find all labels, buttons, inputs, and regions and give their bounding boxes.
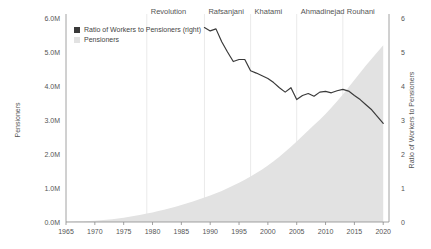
x-tick-label: 1980 — [145, 228, 161, 235]
chart-canvas: 1965197019751980198519901995200020052010… — [0, 0, 431, 249]
x-tick-label: 2020 — [375, 228, 391, 235]
legend-swatch — [74, 37, 80, 43]
x-tick-label: 2010 — [318, 228, 334, 235]
x-tick-label: 1975 — [116, 228, 132, 235]
era-label-khatami: Khatami — [255, 7, 283, 16]
x-tick-label: 1985 — [174, 228, 190, 235]
y2-tick-label: 1 — [401, 185, 405, 192]
x-tick-label: 1965 — [58, 228, 74, 235]
y2-tick-label: 5 — [401, 49, 405, 56]
y-tick-label: 0.0M — [44, 219, 60, 226]
y-tick-labels: 0.0M1.0M2.0M3.0M4.0M5.0M6.0M — [44, 15, 60, 226]
area-series-pensioners — [66, 45, 383, 222]
y2-tick-label: 4 — [401, 83, 405, 90]
era-label-rouhani: Rouhani — [347, 7, 375, 16]
y2-tick-label: 3 — [401, 117, 405, 124]
x-tick-label: 2000 — [260, 228, 276, 235]
y2-tick-label: 2 — [401, 151, 405, 158]
pensioners-ratio-chart: 1965197019751980198519901995200020052010… — [0, 0, 431, 249]
x-tick-label: 2005 — [289, 228, 305, 235]
y-tick-label: 3.0M — [44, 117, 60, 124]
y2-tick-label: 0 — [401, 219, 405, 226]
y2-tick-label: 6 — [401, 15, 405, 22]
y-axis-title: Pensioners — [14, 102, 21, 138]
chart-legend: Ratio of Workers to Pensioners (right)Pe… — [74, 26, 201, 43]
era-labels: RevolutionRafsanjaniKhatamiAhmadinejadRo… — [151, 7, 375, 16]
legend-swatch — [74, 27, 80, 33]
era-label-rafsanjani: Rafsanjani — [208, 7, 244, 16]
legend-label: Pensioners — [84, 36, 120, 43]
era-label-ahmadinejad: Ahmadinejad — [301, 7, 345, 16]
x-tick-label: 1970 — [87, 228, 103, 235]
legend-label: Ratio of Workers to Pensioners (right) — [84, 26, 201, 34]
x-tick-label: 2015 — [347, 228, 363, 235]
y2-axis-title: Ratio of Workers to Pensioners — [408, 71, 415, 168]
y-tick-label: 4.0M — [44, 83, 60, 90]
era-label-revolution: Revolution — [151, 7, 186, 16]
y-tick-label: 1.0M — [44, 185, 60, 192]
y-tick-label: 5.0M — [44, 49, 60, 56]
area-series-group — [66, 45, 383, 222]
x-tick-labels: 1965197019751980198519901995200020052010… — [58, 228, 391, 235]
x-tick-label: 1995 — [231, 228, 247, 235]
y-tick-label: 2.0M — [44, 151, 60, 158]
x-tick-label: 1990 — [202, 228, 218, 235]
y-tick-label: 6.0M — [44, 15, 60, 22]
y2-tick-labels: 0123456 — [401, 15, 405, 226]
